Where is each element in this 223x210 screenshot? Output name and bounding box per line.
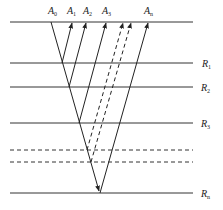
reflected-ray-a3 bbox=[79, 23, 106, 123]
reflected-ray-dashed-2 bbox=[91, 23, 131, 162]
reflected-ray-a1 bbox=[62, 23, 72, 63]
incident-ray-a0 bbox=[51, 22, 99, 191]
label-an: An bbox=[143, 5, 153, 17]
label-a0: A0 bbox=[47, 5, 57, 17]
reflection-diagram: A0 A1 A2 A3 An R1 R2 R3 Rn bbox=[0, 0, 223, 210]
label-r3: R3 bbox=[200, 118, 210, 130]
reflected-ray-an bbox=[100, 23, 148, 193]
label-a1: A1 bbox=[66, 5, 76, 17]
label-a3: A3 bbox=[101, 5, 111, 17]
reflected-ray-a2 bbox=[69, 23, 86, 87]
label-r2: R2 bbox=[200, 82, 210, 94]
label-a2: A2 bbox=[82, 5, 92, 17]
label-rn: Rn bbox=[200, 188, 210, 200]
label-r1: R1 bbox=[201, 58, 211, 70]
